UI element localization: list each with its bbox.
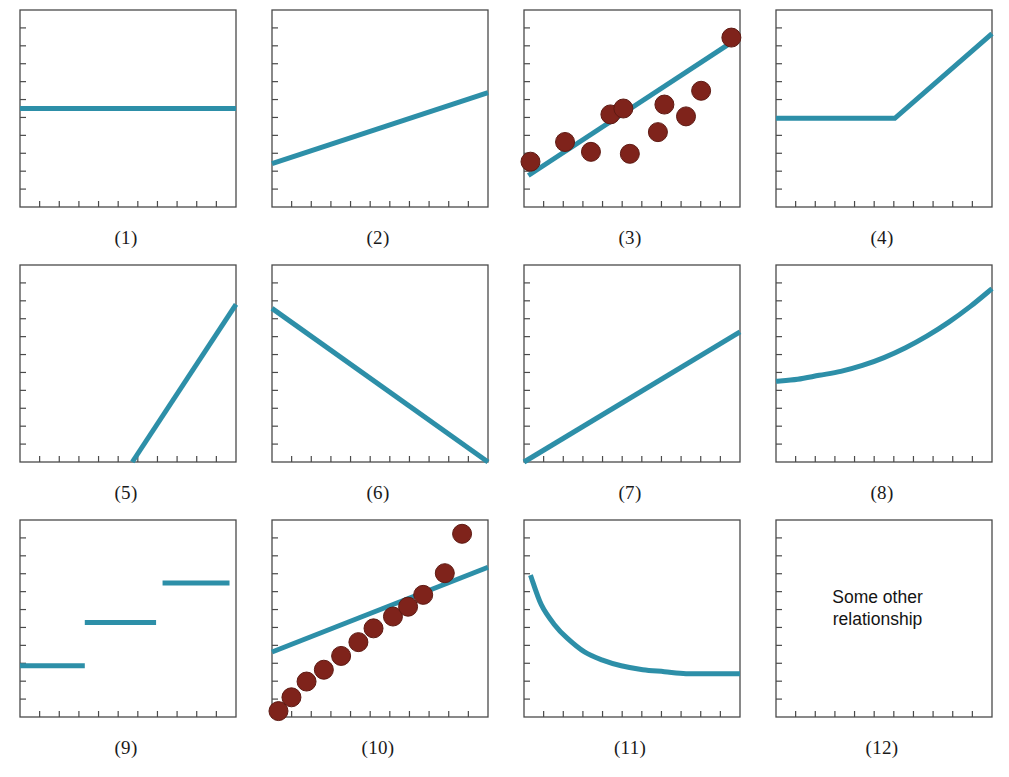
panel-6: (6) (252, 255, 504, 510)
panel-3: (3) (504, 0, 756, 255)
panel-caption-1: (1) (0, 228, 252, 247)
panel-5: (5) (0, 255, 252, 510)
panel-caption-10: (10) (252, 738, 504, 757)
axes-frame (776, 265, 992, 462)
plot-area-12: Some otherrelationship (764, 510, 1000, 735)
plot-area-1 (8, 0, 244, 225)
panel-caption-9: (9) (0, 738, 252, 757)
plot-area-6 (260, 255, 496, 480)
panel-8: (8) (756, 255, 1008, 510)
panel-caption-5: (5) (0, 483, 252, 502)
panel-caption-11: (11) (504, 738, 756, 757)
panel-caption-6: (6) (252, 483, 504, 502)
axes-frame (272, 10, 488, 207)
relationship-panel-grid: (1)(2)(3)(4)(5)(6)(7)(8)(9)(10)(11)Some … (0, 0, 1008, 765)
panel-caption-7: (7) (504, 483, 756, 502)
panel-9: (9) (0, 510, 252, 765)
annotation-line-2: relationship (833, 609, 923, 629)
panel-2: (2) (252, 0, 504, 255)
plot-area-3 (512, 0, 748, 225)
panel-caption-4: (4) (756, 228, 1008, 247)
axes-frame (272, 265, 488, 462)
panel-10: (10) (252, 510, 504, 765)
plot-area-2 (260, 0, 496, 225)
plot-area-11 (512, 510, 748, 735)
panel-7: (7) (504, 255, 756, 510)
plot-area-8 (764, 255, 1000, 480)
axes-frame (524, 520, 740, 717)
panel-caption-8: (8) (756, 483, 1008, 502)
axes-frame (20, 520, 236, 717)
panel-caption-12: (12) (756, 738, 1008, 757)
plot-area-9 (8, 510, 244, 735)
axes-frame (20, 265, 236, 462)
annotation-line-1: Some other (832, 587, 923, 607)
panel-4: (4) (756, 0, 1008, 255)
panel-11: (11) (504, 510, 756, 765)
plot-area-5 (8, 255, 244, 480)
plot-area-7 (512, 255, 748, 480)
axes-frame (524, 265, 740, 462)
plot-area-10 (260, 510, 496, 735)
panel-12: Some otherrelationship(12) (756, 510, 1008, 765)
axes-frame (776, 10, 992, 207)
panel-caption-2: (2) (252, 228, 504, 247)
panel-caption-3: (3) (504, 228, 756, 247)
panel-1: (1) (0, 0, 252, 255)
plot-area-4 (764, 0, 1000, 225)
